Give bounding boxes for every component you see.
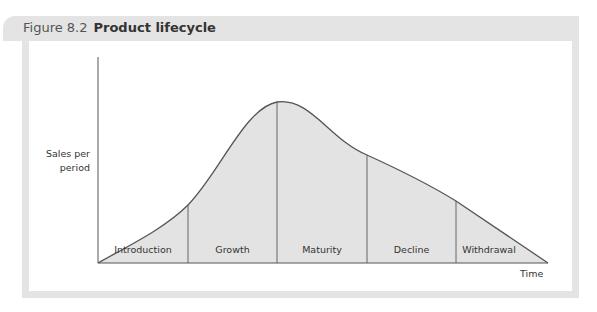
phase-label-withdrawal: Withdrawal bbox=[456, 244, 522, 255]
y-axis-label-line2: period bbox=[40, 161, 90, 175]
y-axis-label: Sales per period bbox=[40, 147, 90, 175]
phase-label-growth: Growth bbox=[188, 244, 277, 255]
phase-label-maturity: Maturity bbox=[277, 244, 367, 255]
sales-curve-area bbox=[98, 102, 548, 263]
phase-label-decline: Decline bbox=[367, 244, 456, 255]
x-axis-label: Time bbox=[520, 268, 543, 279]
phase-label-introduction: Introduction bbox=[98, 244, 188, 255]
y-axis-label-line1: Sales per bbox=[40, 147, 90, 161]
